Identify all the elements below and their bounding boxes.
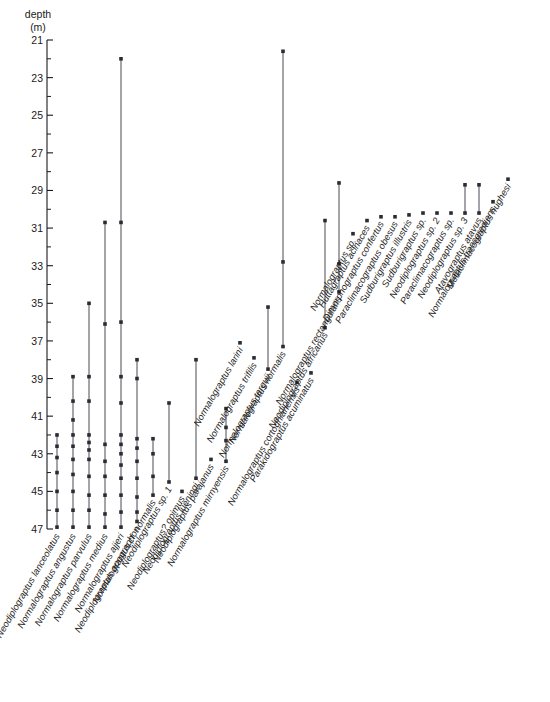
occurrence-dot xyxy=(119,510,123,514)
taxon-labels: Neodiplograptus lanceolatusNormalograptu… xyxy=(0,181,513,640)
occurrence-dot xyxy=(194,358,198,362)
taxon-range[interactable] xyxy=(379,215,383,219)
occurrence-dot xyxy=(55,471,59,475)
occurrence-dot xyxy=(252,356,256,360)
taxon-range[interactable] xyxy=(252,356,256,360)
axis-tick-label: 21 xyxy=(31,34,43,46)
occurrence-dot xyxy=(266,305,270,309)
occurrence-dot xyxy=(119,433,123,437)
occurrence-dot xyxy=(87,448,91,452)
taxon-range[interactable] xyxy=(119,57,123,529)
occurrence-dot xyxy=(71,525,75,529)
occurrence-dot xyxy=(119,57,123,61)
occurrence-dot xyxy=(87,441,91,445)
axis-tick-label: 25 xyxy=(31,109,43,121)
occurrence-dot xyxy=(103,443,107,447)
occurrence-dot xyxy=(151,452,155,456)
occurrence-dot xyxy=(55,456,59,460)
axis-title-unit: (m) xyxy=(30,21,46,33)
axis-tick-label: 43 xyxy=(31,448,43,460)
taxon-range[interactable] xyxy=(167,401,171,484)
taxon-range[interactable] xyxy=(435,211,439,215)
occurrence-dot xyxy=(365,219,369,223)
occurrence-dot xyxy=(87,458,91,462)
taxon-range[interactable] xyxy=(266,305,270,371)
taxon-range[interactable] xyxy=(449,211,453,215)
occurrence-dot xyxy=(119,375,123,379)
occurrence-dot xyxy=(87,508,91,512)
axis-tick-label: 31 xyxy=(31,222,43,234)
occurrence-dot xyxy=(435,211,439,215)
occurrence-dot xyxy=(477,183,481,187)
occurrence-dot xyxy=(87,493,91,497)
axis-title-depth: depth xyxy=(25,8,51,20)
axis-title-group: depth (m) xyxy=(25,8,51,33)
occurrence-dot xyxy=(71,490,75,494)
range-chart-canvas: depth (m) 2123252729313335373941434547 N… xyxy=(0,0,550,702)
taxon-range[interactable] xyxy=(365,219,369,223)
taxon-range[interactable] xyxy=(55,433,59,529)
taxon-range[interactable] xyxy=(351,232,355,236)
occurrence-dot xyxy=(506,177,510,181)
occurrence-dot xyxy=(477,211,481,215)
occurrence-dot xyxy=(393,215,397,219)
occurrence-dot xyxy=(421,211,425,215)
occurrence-dot xyxy=(167,401,171,405)
occurrence-dot xyxy=(71,473,75,477)
occurrence-dot xyxy=(55,525,59,529)
occurrence-dot xyxy=(167,480,171,484)
taxon-range[interactable] xyxy=(135,358,139,523)
axis-tick-label: 45 xyxy=(31,485,43,497)
taxon-range[interactable] xyxy=(463,183,467,215)
occurrence-dot xyxy=(103,525,107,529)
occurrence-dot xyxy=(103,512,107,516)
occurrence-dot xyxy=(449,211,453,215)
occurrence-dot xyxy=(103,475,107,479)
taxon-range[interactable] xyxy=(103,221,107,529)
occurrence-dot xyxy=(71,375,75,379)
occurrence-dot xyxy=(151,437,155,441)
occurrence-dot xyxy=(55,490,59,494)
occurrence-dot xyxy=(71,433,75,437)
taxon-range[interactable] xyxy=(407,213,411,217)
occurrence-dot xyxy=(337,181,341,185)
occurrence-dot xyxy=(135,495,139,499)
occurrence-dot xyxy=(55,444,59,448)
occurrence-dot xyxy=(103,322,107,326)
taxon-range[interactable] xyxy=(393,215,397,219)
taxon-range[interactable] xyxy=(151,437,155,497)
occurrence-dot xyxy=(463,183,467,187)
occurrence-dot xyxy=(135,476,139,480)
occurrence-dot xyxy=(209,458,213,462)
axis-tick-label: 47 xyxy=(31,523,43,535)
axis-tick-label: 29 xyxy=(31,184,43,196)
depth-axis: 2123252729313335373941434547 xyxy=(31,34,53,535)
taxon-range[interactable] xyxy=(421,211,425,215)
taxon-range[interactable] xyxy=(506,177,510,181)
taxon-range[interactable] xyxy=(209,458,213,462)
occurrence-dot xyxy=(87,525,91,529)
occurrence-dot xyxy=(103,459,107,463)
range-chart: depth (m) 2123252729313335373941434547 N… xyxy=(0,0,550,702)
occurrence-dot xyxy=(87,375,91,379)
occurrence-dot xyxy=(71,399,75,403)
axis-tick-label: 27 xyxy=(31,147,43,159)
taxon-range[interactable] xyxy=(71,375,75,529)
taxon-range[interactable] xyxy=(309,371,313,375)
taxon-label: Neodiplograptus africanus xyxy=(266,330,330,430)
occurrence-dot xyxy=(87,433,91,437)
occurrence-dot xyxy=(224,426,228,430)
taxon-range[interactable] xyxy=(477,183,481,215)
occurrence-dot xyxy=(281,260,285,264)
occurrence-dot xyxy=(103,493,107,497)
occurrence-dot xyxy=(87,475,91,479)
axis-tick-label: 39 xyxy=(31,373,43,385)
occurrence-dot xyxy=(119,493,123,497)
taxon-range[interactable] xyxy=(180,490,184,494)
occurrence-dot xyxy=(103,221,107,225)
occurrence-dot xyxy=(151,493,155,497)
taxon-range[interactable] xyxy=(238,341,242,345)
taxon-range[interactable] xyxy=(87,302,91,529)
taxon-range[interactable] xyxy=(281,49,285,348)
occurrence-dot xyxy=(323,219,327,223)
